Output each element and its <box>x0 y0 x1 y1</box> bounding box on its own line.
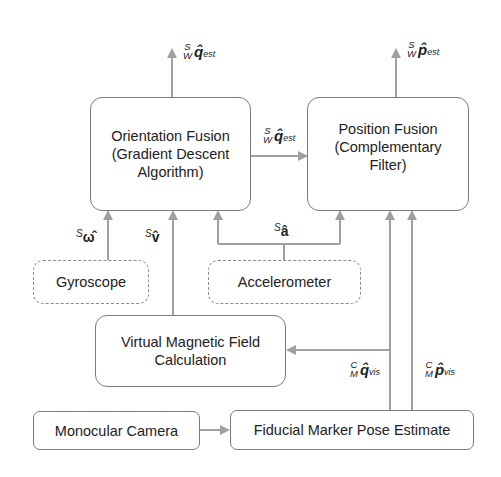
monocular-camera-label: Monocular Camera <box>55 422 178 440</box>
virtual-magnetic-node: Virtual Magnetic Field Calculation <box>95 315 286 387</box>
label-q-est-out: SWq̂est <box>183 42 215 60</box>
position-line-1: Position Fusion <box>334 120 441 138</box>
virtual-magnetic-line-2: Calculation <box>121 351 260 369</box>
label-q-est-mid: SWq̂est <box>263 126 295 144</box>
label-omega: Sω̂ <box>76 228 95 245</box>
orientation-line-3: Algorithm) <box>111 163 229 181</box>
fiducial-marker-label: Fiducial Marker Pose Estimate <box>254 421 451 439</box>
monocular-camera-node: Monocular Camera <box>33 411 200 450</box>
gyroscope-label: Gyroscope <box>56 273 126 291</box>
fiducial-marker-node: Fiducial Marker Pose Estimate <box>230 410 474 450</box>
virtual-magnetic-line-1: Virtual Magnetic Field <box>121 333 260 351</box>
orientation-line-1: Orientation Fusion <box>111 127 229 145</box>
accelerometer-label: Accelerometer <box>238 273 331 291</box>
orientation-fusion-node: Orientation Fusion (Gradient Descent Alg… <box>90 97 251 211</box>
label-p-est-out: SWp̂est <box>407 40 439 58</box>
label-p-vis: CMp̂vis <box>425 360 455 378</box>
accelerometer-node: Accelerometer <box>208 260 361 304</box>
position-fusion-node: Position Fusion (Complementary Filter) <box>307 97 469 211</box>
label-v: Sv̂ <box>145 228 159 245</box>
position-line-2: (Complementary <box>334 138 441 156</box>
gyroscope-node: Gyroscope <box>33 260 149 304</box>
orientation-line-2: (Gradient Descent <box>111 145 229 163</box>
position-line-3: Filter) <box>334 156 441 174</box>
label-q-vis: CMq̂vis <box>350 360 380 378</box>
label-a: Sâ <box>274 222 288 239</box>
